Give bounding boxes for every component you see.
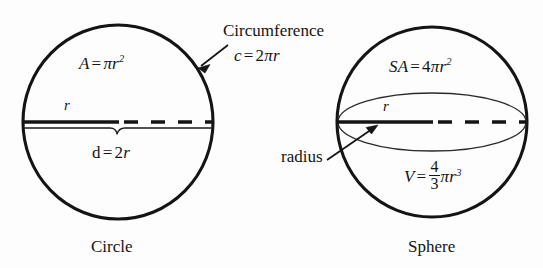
area-formula-exponent: 2	[119, 53, 124, 64]
sphere-surface-area-formula: SA=4πr2	[389, 58, 452, 75]
circumference-formula-pi: π	[264, 46, 273, 65]
diameter-formula-coefficient: 2	[115, 143, 124, 162]
sphere-radius-label: r	[383, 99, 389, 114]
circle-area-formula: A=πr2	[79, 55, 124, 72]
sphere-caption: Sphere	[408, 238, 455, 255]
circumference-formula-radius-var: r	[273, 46, 280, 65]
volume-formula-numerator: 4	[429, 159, 439, 176]
volume-formula-denominator: 3	[429, 176, 439, 192]
area-formula-radius-var: r	[112, 54, 119, 73]
diameter-formula-radius-var: r	[123, 143, 130, 162]
sphere-volume-formula: V=43πr3	[404, 159, 462, 193]
sphere-radius-callout: radius	[281, 148, 323, 165]
circle-radius-label: r	[64, 98, 70, 113]
circumference-formula-lhs: c	[234, 46, 242, 65]
sa-formula-pi: π	[431, 57, 440, 76]
volume-formula-equals: =	[417, 167, 427, 186]
sa-formula-exponent: 2	[446, 56, 451, 67]
diameter-formula-equals: =	[103, 143, 113, 162]
volume-formula-exponent: 3	[456, 167, 461, 178]
circle-caption: Circle	[91, 238, 133, 255]
circumference-leader-line	[201, 45, 228, 66]
circumference-formula-equals: =	[244, 46, 254, 65]
circumference-formula-coefficient: 2	[256, 46, 265, 65]
area-formula-lhs: A	[79, 54, 90, 73]
volume-formula-lhs: V	[404, 167, 415, 186]
area-formula-equals: =	[92, 54, 102, 73]
diameter-formula-lhs: d	[92, 143, 101, 162]
diameter-brace	[25, 128, 211, 134]
volume-formula-pi: π	[441, 167, 450, 186]
sa-formula-coefficient: 4	[422, 57, 431, 76]
circumference-label: Circumference	[223, 22, 324, 39]
sa-formula-equals: =	[410, 57, 420, 76]
volume-formula-fraction: 43	[429, 159, 439, 193]
figure-canvas	[0, 0, 543, 268]
geometry-figure: Circumference c=2πr A=πr2 r d=2r Circle …	[0, 0, 543, 268]
circle-diameter-formula: d=2r	[92, 144, 130, 161]
sa-formula-lhs: SA	[389, 57, 408, 76]
circumference-formula: c=2πr	[234, 47, 280, 64]
area-formula-pi: π	[103, 54, 112, 73]
